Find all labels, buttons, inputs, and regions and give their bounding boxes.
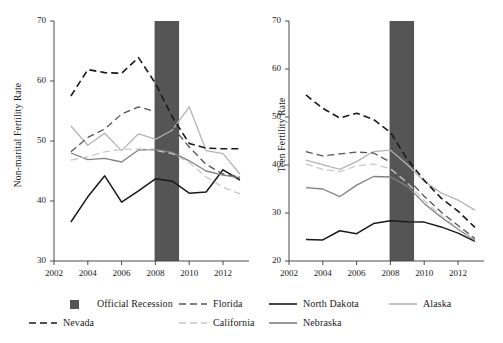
y-tick-label: 30 bbox=[259, 207, 281, 217]
chart-legend: Official RecessionFloridaNorth DakotaAla… bbox=[0, 292, 503, 343]
y-axis-title-teen: Teen Fertility Rate bbox=[277, 75, 287, 195]
non-marital-plot-area bbox=[0, 0, 251, 290]
teen-plot-area bbox=[252, 0, 503, 290]
y-tick-label: 30 bbox=[24, 255, 46, 265]
y-axis-title-non-marital: Non-marital Fertility Rate bbox=[13, 75, 23, 195]
legend-line-icon bbox=[268, 317, 298, 329]
legend-swatch-icon bbox=[62, 298, 92, 310]
legend-label: Official Recession bbox=[97, 298, 173, 309]
x-tick-label: 2010 bbox=[172, 268, 206, 278]
legend-item-nebraska[interactable]: Nebraska bbox=[268, 314, 342, 331]
legend-label: Florida bbox=[213, 298, 243, 309]
x-tick-label: 2002 bbox=[37, 268, 71, 278]
y-tick-label: 20 bbox=[259, 255, 281, 265]
x-tick-label: 2008 bbox=[138, 268, 172, 278]
y-tick-label: 60 bbox=[24, 75, 46, 85]
y-tick-label: 70 bbox=[24, 15, 46, 25]
legend-label: California bbox=[213, 317, 255, 328]
y-tick-label: 50 bbox=[259, 111, 281, 121]
legend-item-nevada[interactable]: Nevada bbox=[28, 314, 94, 331]
legend-line-icon bbox=[178, 317, 208, 329]
y-tick-label: 50 bbox=[24, 135, 46, 145]
fertility-rate-figure: Non-marital Fertility Rate 3040506070200… bbox=[0, 0, 503, 343]
x-tick-label: 2006 bbox=[340, 268, 374, 278]
y-tick-label: 40 bbox=[24, 195, 46, 205]
legend-line-icon bbox=[28, 317, 58, 329]
x-tick-label: 2012 bbox=[206, 268, 240, 278]
legend-row-2: NevadaCaliforniaNebraska bbox=[0, 314, 503, 331]
legend-line-icon bbox=[268, 298, 298, 310]
x-tick-label: 2002 bbox=[272, 268, 306, 278]
x-tick-label: 2012 bbox=[441, 268, 475, 278]
x-tick-label: 2008 bbox=[373, 268, 407, 278]
y-tick-label: 70 bbox=[259, 15, 281, 25]
x-tick-label: 2004 bbox=[306, 268, 340, 278]
legend-item-california[interactable]: California bbox=[178, 314, 255, 331]
legend-label: Nevada bbox=[63, 317, 94, 328]
legend-label: Alaska bbox=[423, 298, 451, 309]
x-tick-label: 2004 bbox=[71, 268, 105, 278]
legend-item-florida[interactable]: Florida bbox=[178, 295, 243, 312]
x-tick-label: 2006 bbox=[105, 268, 139, 278]
legend-item-official-recession[interactable]: Official Recession bbox=[62, 295, 173, 312]
chart-panel-teen: Teen Fertility Rate 20304050607020022004… bbox=[252, 0, 503, 290]
y-tick-label: 60 bbox=[259, 63, 281, 73]
chart-panels: Non-marital Fertility Rate 3040506070200… bbox=[0, 0, 503, 290]
y-tick-label: 40 bbox=[259, 159, 281, 169]
recession-band bbox=[155, 21, 180, 261]
legend-item-alaska[interactable]: Alaska bbox=[388, 295, 451, 312]
recession-swatch-icon bbox=[70, 300, 79, 309]
legend-line-icon bbox=[388, 298, 418, 310]
x-tick-label: 2010 bbox=[407, 268, 441, 278]
legend-label: Nebraska bbox=[303, 317, 342, 328]
legend-line-icon bbox=[178, 298, 208, 310]
legend-label: North Dakota bbox=[303, 298, 359, 309]
chart-panel-non-marital: Non-marital Fertility Rate 3040506070200… bbox=[0, 0, 251, 290]
recession-band bbox=[390, 21, 415, 261]
legend-item-north-dakota[interactable]: North Dakota bbox=[268, 295, 359, 312]
legend-row-1: Official RecessionFloridaNorth DakotaAla… bbox=[0, 295, 503, 312]
